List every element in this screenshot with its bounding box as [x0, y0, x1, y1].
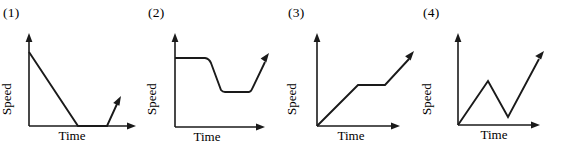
x-axis-label-2: Time [181, 130, 233, 143]
x-axis-label-3: Time [325, 129, 377, 142]
y-axis-arrowhead-3 [314, 33, 321, 42]
plot-svg-2 [145, 0, 285, 150]
x-axis-arrowhead-3 [391, 123, 400, 130]
y-axis-arrowhead-2 [172, 33, 179, 42]
x-axis-label-4: Time [468, 128, 520, 141]
curve-arrowhead-3 [405, 51, 414, 61]
speed-curve-2 [175, 58, 265, 92]
graph-row: (1) Speed Time (2) Speed [0, 0, 565, 150]
x-axis-arrowhead-4 [531, 122, 540, 129]
graph-panel-3: (3) Speed Time [285, 0, 425, 150]
curve-arrowhead-2 [261, 53, 269, 63]
y-axis-arrowhead-1 [26, 33, 33, 42]
speed-curve-1 [29, 52, 117, 126]
y-axis-arrowhead-4 [455, 33, 462, 42]
x-axis-arrowhead-1 [127, 123, 136, 130]
graph-panel-2: (2) Speed Time [145, 0, 285, 150]
x-axis-label-1: Time [46, 129, 98, 142]
graph-panel-4: (4) Speed Time [420, 0, 565, 150]
speed-curve-3 [317, 59, 409, 126]
curve-arrowhead-1 [113, 96, 121, 106]
curve-arrowhead-4 [535, 51, 544, 60]
speed-curve-4 [458, 59, 539, 125]
x-axis-arrowhead-2 [256, 124, 265, 131]
graph-panel-1: (1) Speed Time [0, 0, 140, 150]
